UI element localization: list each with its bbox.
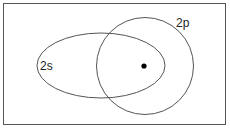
nucleus-dot bbox=[141, 63, 146, 68]
orbital-2s-label: 2s bbox=[40, 59, 53, 73]
orbital-diagram: 2s 2p bbox=[0, 0, 230, 129]
orbital-2p-label: 2p bbox=[176, 16, 190, 30]
